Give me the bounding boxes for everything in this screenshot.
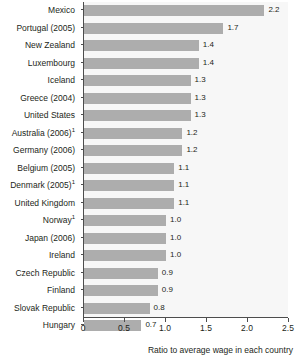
category-label: New Zealand xyxy=(0,37,79,55)
category-label: United Kingdom xyxy=(0,195,79,213)
bar xyxy=(84,75,191,86)
x-axis-title: Ratio to average wage in each country xyxy=(0,345,293,355)
y-axis-tick xyxy=(81,44,84,45)
category-label: Ireland xyxy=(0,247,79,265)
bar-value-label: 1.3 xyxy=(195,74,206,85)
category-label: Slovak Republic xyxy=(0,300,79,318)
y-axis-tick xyxy=(81,132,84,133)
bar-value-label: 1.0 xyxy=(170,232,181,243)
bar-row: 1.4 xyxy=(84,55,288,73)
bar xyxy=(84,145,182,156)
bar-row: 2.2 xyxy=(84,2,288,20)
bar xyxy=(84,23,223,34)
bar xyxy=(84,215,166,226)
bar-value-label: 0.8 xyxy=(154,302,165,313)
x-axis-tick xyxy=(165,318,166,322)
bar xyxy=(84,285,158,296)
category-label: Finland xyxy=(0,282,79,300)
bar-row: 0.9 xyxy=(84,265,288,283)
bar-row: 1.0 xyxy=(84,247,288,265)
bar-value-label: 1.2 xyxy=(186,127,197,138)
bar xyxy=(84,128,182,139)
bar-row: 1.4 xyxy=(84,37,288,55)
y-axis-tick xyxy=(81,289,84,290)
x-axis-tick-label: 2.0 xyxy=(241,323,253,333)
category-label: Greece (2004) xyxy=(0,90,79,108)
bar-value-label: 1.3 xyxy=(195,92,206,103)
bar-value-label: 1.3 xyxy=(195,109,206,120)
y-axis-tick xyxy=(81,27,84,28)
bar xyxy=(84,180,174,191)
bar-value-label: 0.9 xyxy=(162,267,173,278)
y-axis-tick xyxy=(81,219,84,220)
bar-value-label: 1.0 xyxy=(170,249,181,260)
category-label: Belgium (2005) xyxy=(0,160,79,178)
bar-value-label: 1.4 xyxy=(203,39,214,50)
bar-row: 1.3 xyxy=(84,107,288,125)
x-axis-tick-label: 1.5 xyxy=(200,323,212,333)
y-axis-tick xyxy=(81,97,84,98)
y-axis-tick xyxy=(81,202,84,203)
bar-value-label: 0.9 xyxy=(162,284,173,295)
bar-row: 0.9 xyxy=(84,282,288,300)
x-axis-tick-label: 0 xyxy=(81,323,86,333)
category-label: Portugal (2005) xyxy=(0,20,79,38)
footnote-marker: 1 xyxy=(72,214,75,220)
x-axis-tick xyxy=(124,318,125,322)
bar-row: 1.2 xyxy=(84,142,288,160)
bar xyxy=(84,303,150,314)
x-axis-tick xyxy=(83,318,84,322)
bar xyxy=(84,110,191,121)
y-axis-tick xyxy=(81,149,84,150)
bar-row: 1.7 xyxy=(84,20,288,38)
x-axis-line xyxy=(83,317,288,318)
bar-row: 1.3 xyxy=(84,72,288,90)
bar xyxy=(84,163,174,174)
bar-row: 1.0 xyxy=(84,230,288,248)
bar xyxy=(84,250,166,261)
plot-area: 2.21.71.41.41.31.31.31.21.21.11.11.11.01… xyxy=(83,2,288,317)
x-axis-tick-label: 2.5 xyxy=(282,323,294,333)
category-label: Hungary xyxy=(0,317,79,335)
bar-value-label: 1.0 xyxy=(170,214,181,225)
bar-row: 1.2 xyxy=(84,125,288,143)
y-axis-tick xyxy=(81,184,84,185)
bar-row: 1.1 xyxy=(84,177,288,195)
category-label: United States xyxy=(0,107,79,125)
y-axis-tick xyxy=(81,114,84,115)
category-label: Denmark (2005)1 xyxy=(0,177,79,195)
bar-row: 0.8 xyxy=(84,300,288,318)
y-axis-tick xyxy=(81,79,84,80)
bar-value-label: 1.1 xyxy=(178,197,189,208)
x-axis-tick-label: 0.5 xyxy=(118,323,130,333)
bar xyxy=(84,40,199,51)
category-label: Iceland xyxy=(0,72,79,90)
category-axis-labels: MexicoPortugal (2005)New ZealandLuxembou… xyxy=(0,2,79,317)
y-axis-tick xyxy=(81,62,84,63)
footnote-marker: 1 xyxy=(72,179,75,185)
bar-row: 1.1 xyxy=(84,160,288,178)
bar-value-label: 2.2 xyxy=(268,4,279,15)
x-axis-tick xyxy=(247,318,248,322)
bar-value-label: 1.4 xyxy=(203,57,214,68)
category-label: Czech Republic xyxy=(0,265,79,283)
x-axis-tick-label: 1.0 xyxy=(159,323,171,333)
bar-chart: MexicoPortugal (2005)New ZealandLuxembou… xyxy=(0,0,297,364)
bar-value-label: 1.7 xyxy=(227,22,238,33)
category-label: Luxembourg xyxy=(0,55,79,73)
y-axis-tick xyxy=(81,9,84,10)
bar-value-label: 1.1 xyxy=(178,179,189,190)
bar-row: 0.7 xyxy=(84,317,288,335)
bar-row: 1.0 xyxy=(84,212,288,230)
category-label: Norway1 xyxy=(0,212,79,230)
bar-row: 1.3 xyxy=(84,90,288,108)
bar-row: 1.1 xyxy=(84,195,288,213)
bar xyxy=(84,58,199,69)
bar-value-label: 0.7 xyxy=(145,319,156,330)
y-axis-tick xyxy=(81,167,84,168)
bar xyxy=(84,320,141,331)
y-axis-tick xyxy=(81,254,84,255)
category-label: Germany (2006) xyxy=(0,142,79,160)
x-axis-tick xyxy=(288,318,289,322)
bar-value-label: 1.2 xyxy=(186,144,197,155)
